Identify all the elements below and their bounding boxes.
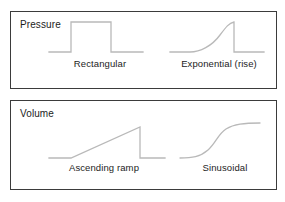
waveform-sinusoidal bbox=[178, 118, 264, 162]
caption-rectangular: Rectangular bbox=[45, 58, 155, 69]
waveform-exponential-rise bbox=[168, 16, 268, 56]
waveform-figure: Pressure Rectangular Exponential (rise) … bbox=[0, 0, 285, 202]
panel-label-volume: Volume bbox=[20, 108, 54, 119]
caption-exponential-rise: Exponential (rise) bbox=[160, 58, 278, 69]
waveform-exponential-rise-path bbox=[170, 22, 264, 52]
caption-ascending-ramp: Ascending ramp bbox=[45, 162, 163, 173]
waveform-rectangular-path bbox=[49, 22, 143, 52]
waveform-ascending-ramp bbox=[47, 120, 167, 162]
caption-sinusoidal: Sinusoidal bbox=[175, 162, 275, 173]
waveform-ascending-ramp-path bbox=[49, 127, 165, 158]
waveform-sinusoidal-path bbox=[180, 123, 260, 158]
waveform-rectangular bbox=[47, 16, 147, 56]
